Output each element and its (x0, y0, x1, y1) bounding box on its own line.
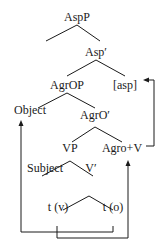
node-aspp: AspP (64, 10, 90, 24)
node-agro-bar: AgrO′ (80, 108, 110, 122)
node-agrop: AgrOP (50, 78, 84, 92)
node-subject: Subject (27, 161, 63, 175)
node-asp-bar: Asp′ (85, 45, 107, 59)
node-trace-v: t (v) (48, 200, 68, 214)
node-trace-o: t (o) (103, 200, 123, 214)
node-vp: VP (62, 141, 77, 155)
node-v-bar: V′ (85, 161, 96, 175)
node-object: Object (14, 103, 46, 117)
node-asp-feature: [asp] (113, 78, 137, 92)
node-agro-v: Agro+V (102, 141, 142, 155)
